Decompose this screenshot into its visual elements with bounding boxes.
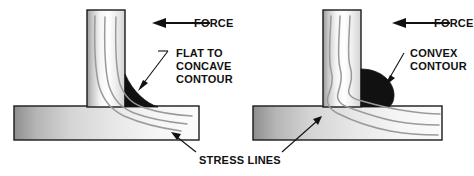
base-plate-left [14, 106, 199, 140]
contour-label-right-line2: CONTOUR [410, 60, 467, 72]
diagram-canvas: FORCE FLAT TO CONCAVE CONTOUR [0, 0, 474, 176]
contour-label-left-line2: CONCAVE [176, 60, 232, 72]
base-plate-right [253, 106, 442, 140]
stress-lines-label: STRESS LINES [199, 154, 281, 166]
contour-label-right-line1: CONVEX [410, 47, 458, 59]
flat-to-concave-weld-panel: FORCE FLAT TO CONCAVE CONTOUR [14, 10, 234, 140]
contour-label-left-line1: FLAT TO [176, 47, 223, 59]
force-label-left: FORCE [194, 17, 234, 29]
force-label-right: FORCE [434, 17, 474, 29]
contour-leader-right [389, 53, 404, 79]
convex-weld-panel: FORCE CONVEX CONTOUR [253, 10, 474, 140]
vertical-member-left [87, 10, 125, 107]
welding-stress-diagram: FORCE FLAT TO CONCAVE CONTOUR [0, 0, 474, 176]
convex-fillet-weld [361, 69, 394, 107]
concave-fillet-weld [125, 74, 158, 107]
contour-label-left-line3: CONTOUR [176, 73, 233, 85]
